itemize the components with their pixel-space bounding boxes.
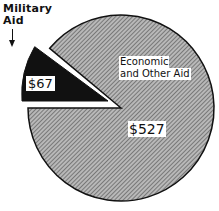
military-aid-value: $67 <box>25 75 56 92</box>
economic-value-text: $527 <box>128 121 166 137</box>
economic-label-line2: and Other Aid <box>119 68 191 80</box>
slice-economic-aid <box>28 15 214 201</box>
pie-chart <box>0 0 219 211</box>
arrowhead-icon <box>9 40 15 47</box>
military-aid-label: Military Aid <box>3 3 52 27</box>
economic-label-line1: Economic <box>119 56 169 68</box>
economic-aid-value: $527 <box>128 122 166 136</box>
military-label-line2: Aid <box>3 15 52 27</box>
economic-aid-label: Economic and Other Aid <box>119 56 191 80</box>
